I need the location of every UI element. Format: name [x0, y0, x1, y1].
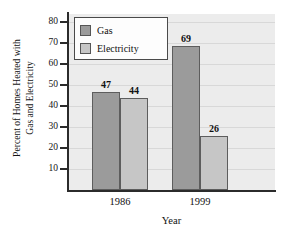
legend-swatch-electricity-icon [80, 43, 91, 54]
legend-swatch-gas-icon [80, 25, 91, 36]
bar-electricity-1986 [120, 98, 148, 190]
y-tick-mark-30 [60, 126, 68, 128]
y-axis-line [67, 12, 69, 192]
bar-value-electricity-1986: 44 [120, 86, 148, 96]
chart-legend: Gas Electricity [74, 17, 168, 60]
y-tick-label-70: 70 [40, 38, 58, 48]
bar-gas-1986 [92, 92, 120, 190]
x-tick-label-1999: 1999 [176, 196, 224, 207]
y-axis-title-line-2: Gas and Electricity [23, 39, 36, 157]
y-tick-label-80-wrap: 80 [38, 17, 58, 27]
y-tick-label-10-wrap: 10 [38, 164, 58, 174]
bar-value-gas-1986: 47 [92, 80, 120, 90]
y-tick-label-20: 20 [40, 143, 58, 153]
y-tick-mark-50 [60, 84, 68, 86]
y-tick-label-50-wrap: 50 [38, 80, 58, 90]
y-tick-label-40-wrap: 40 [38, 101, 58, 111]
y-tick-mark-80 [60, 21, 68, 23]
y-tick-label-40: 40 [40, 101, 58, 111]
bar-value-electricity-1999: 26 [200, 124, 228, 134]
y-tick-mark-60 [60, 63, 68, 65]
y-tick-label-80: 80 [40, 17, 58, 27]
y-tick-label-10: 10 [40, 164, 58, 174]
bar-gas-1999 [172, 46, 200, 190]
legend-item-electricity: Electricity [80, 39, 167, 57]
y-tick-label-50: 50 [40, 80, 58, 90]
y-tick-label-60: 60 [40, 59, 58, 69]
y-tick-mark-20 [60, 147, 68, 149]
bar-value-gas-1999: 69 [172, 34, 200, 44]
x-axis-title: Year [68, 215, 275, 226]
legend-item-gas: Gas [80, 21, 167, 39]
y-tick-mark-40 [60, 105, 68, 107]
legend-label-gas: Gas [97, 25, 113, 36]
y-tick-label-70-wrap: 70 [38, 38, 58, 48]
y-tick-label-60-wrap: 60 [38, 59, 58, 69]
y-tick-mark-10 [60, 168, 68, 170]
y-tick-label-20-wrap: 20 [38, 143, 58, 153]
y-axis-title-text: Percent of Homes Heated with Gas and Ele… [10, 39, 36, 157]
legend-label-electricity: Electricity [97, 43, 139, 54]
y-tick-label-30: 30 [40, 122, 58, 132]
y-axis-title-line-1: Percent of Homes Heated with [10, 39, 23, 157]
bar-electricity-1999 [200, 136, 228, 190]
x-tick-label-1986: 1986 [96, 196, 144, 207]
y-tick-mark-70 [60, 42, 68, 44]
chart-screenshot: Percent of Homes Heated with Gas and Ele… [0, 0, 282, 233]
x-axis-line [67, 190, 276, 192]
y-tick-label-30-wrap: 30 [38, 122, 58, 132]
